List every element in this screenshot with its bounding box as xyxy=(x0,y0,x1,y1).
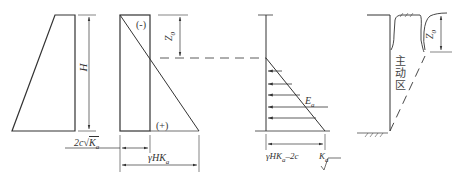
active-zone-label: 主 动 区 xyxy=(394,56,406,92)
cohesion-rectangle xyxy=(120,15,150,131)
net-pressure-bottom-label: γHKa–2c xyxy=(266,152,299,164)
earth-pressure-diagram xyxy=(0,0,457,190)
net-pressure-slope xyxy=(266,58,325,131)
z0-label-right: Z0 xyxy=(425,30,438,39)
pressure-diagonal xyxy=(120,15,199,131)
pressure-trapezoid xyxy=(12,15,75,131)
ka-text: K xyxy=(89,137,96,148)
ka-sub: a xyxy=(96,143,100,151)
resultant-ea-label: Ea xyxy=(305,96,315,109)
soil-crack-left xyxy=(391,15,424,52)
cohesion-term-label: 2c√Ka xyxy=(74,138,99,151)
negative-sign-label: (-) xyxy=(136,20,146,30)
height-label: H xyxy=(78,64,89,72)
positive-sign-label: (+) xyxy=(156,121,168,131)
z0-label-left: Z0 xyxy=(164,32,177,41)
gammaHKa-label: γHKa xyxy=(148,153,169,166)
ka-bottom-label: Ka xyxy=(319,152,329,164)
pressure-arrows xyxy=(268,71,328,118)
